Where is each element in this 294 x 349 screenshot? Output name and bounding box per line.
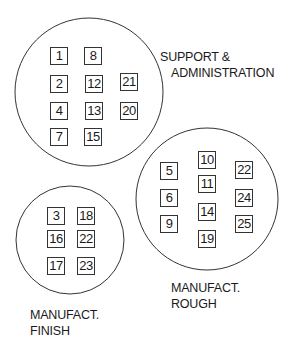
label-line: ADMINISTRATION	[160, 66, 274, 82]
department-box: 13	[85, 102, 103, 120]
department-box: 6	[160, 189, 178, 207]
department-box: 16	[47, 230, 65, 248]
zone-circle-manufact-rough	[136, 128, 278, 270]
department-box: 5	[160, 162, 178, 180]
department-box: 1	[50, 47, 68, 65]
label-line: MANUFACT.	[30, 308, 99, 324]
department-box: 21	[120, 73, 138, 91]
department-box: 4	[50, 102, 68, 120]
department-box: 9	[160, 215, 178, 233]
department-box: 18	[77, 207, 95, 225]
zone-label-manufact-rough: MANUFACT. ROUGH	[171, 281, 240, 312]
label-line: ROUGH	[171, 297, 240, 313]
department-box: 7	[50, 128, 68, 146]
label-line: MANUFACT.	[171, 281, 240, 297]
department-box: 8	[84, 47, 102, 65]
label-line: FINISH	[30, 324, 99, 340]
department-box: 14	[198, 203, 216, 221]
department-box: 23	[77, 257, 95, 275]
department-box: 15	[84, 128, 102, 146]
zone-label-support-administration: SUPPORT & ADMINISTRATION	[160, 50, 274, 81]
department-box: 11	[198, 175, 216, 193]
zone-circle-manufact-finish	[16, 186, 124, 294]
department-box: 20	[120, 102, 138, 120]
department-box: 25	[235, 215, 253, 233]
label-line: SUPPORT &	[160, 50, 274, 66]
department-box: 10	[198, 151, 216, 169]
department-box: 22	[235, 161, 253, 179]
department-box: 19	[198, 230, 216, 248]
department-box: 3	[47, 207, 65, 225]
department-box: 24	[235, 189, 253, 207]
zone-label-manufact-finish: MANUFACT. FINISH	[30, 308, 99, 339]
department-box: 22	[77, 230, 95, 248]
department-box: 12	[85, 75, 103, 93]
department-box: 2	[50, 75, 68, 93]
department-box: 17	[47, 257, 65, 275]
